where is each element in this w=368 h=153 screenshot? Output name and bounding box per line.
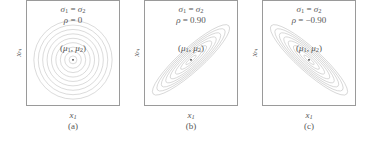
panel-a-y-axis-label: x2 [12,0,26,107]
panel-c-mean-marker [308,59,310,61]
panel-b-y-axis-label: x2 [130,0,144,107]
panel-c-group: x2 σ1 = σ [248,0,356,131]
panel-c-column: σ1 = σ2 ρ = −0.90 (μ1, μ2) x1 (c) [262,0,356,131]
bivariate-normal-contour-figure: x2 [0,0,368,153]
panel-c-contour-lines [263,1,355,105]
panel-a-plot-area: σ1 = σ2 ρ = 0 (μ1, μ2) [26,0,120,106]
panel-a-group: x2 [12,0,120,131]
panel-c-x-axis-label: x1 [305,110,312,120]
panel-b-column: σ1 = σ2 ρ = 0.90 (μ1, μ2) x1 (b) [144,0,238,131]
panel-c-plot-area: σ1 = σ2 ρ = −0.90 (μ1, μ2) [262,0,356,106]
panel-b-plot-area: σ1 = σ2 ρ = 0.90 (μ1, μ2) [144,0,238,106]
panel-a-column: σ1 = σ2 ρ = 0 (μ1, μ2) x1 (a) [26,0,120,131]
panel-b-contour-lines [145,1,237,105]
panel-b-caption: (b) [186,121,197,131]
panel-c-y-axis-label: x2 [248,0,262,107]
panel-c-caption: (c) [304,121,314,131]
panel-a-x-axis-label: x1 [69,110,76,120]
panel-b-mean-marker [190,59,192,61]
panel-a-caption: (a) [68,121,78,131]
panel-a-contour-lines [27,1,119,105]
panel-a-mean-marker [72,59,74,61]
panel-b-x-axis-label: x1 [187,110,194,120]
panel-b-group: x2 σ1 = σ [130,0,238,131]
